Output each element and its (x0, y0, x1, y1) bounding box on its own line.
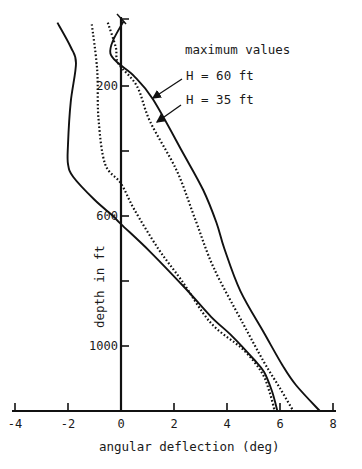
deflection-chart: -4-2024682006001000 maximum values H = 6… (0, 0, 362, 469)
arrow-h60 (153, 79, 182, 98)
x-tick-label: 2 (170, 417, 177, 431)
x-tick-label: 4 (223, 417, 230, 431)
x-tick-label: -4 (8, 417, 22, 431)
y-tick-label: 1000 (89, 339, 118, 353)
y-tick-label: 200 (96, 79, 118, 93)
x-tick-label: 8 (329, 417, 336, 431)
x-tick-label: 0 (117, 417, 124, 431)
annotation-maximum-values: maximum values (185, 42, 290, 57)
y-axis-title: depth in ft (92, 245, 107, 328)
annotation-h35: H = 35 ft (186, 92, 254, 107)
x-tick-label: 6 (276, 417, 283, 431)
x-tick-label: -2 (61, 417, 75, 431)
x-axis-title: angular deflection (deg) (99, 439, 280, 454)
annotation-h60: H = 60 ft (186, 68, 254, 83)
axes: -4-2024682006001000 (8, 14, 337, 431)
